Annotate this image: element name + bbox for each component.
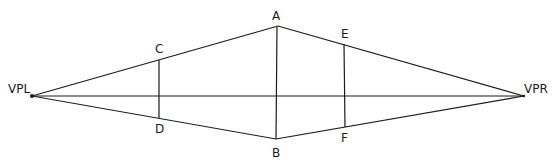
label-vpr: VPR: [524, 82, 548, 96]
label-d: D: [155, 122, 164, 136]
label-b: B: [272, 146, 280, 160]
line-b-vpr: [276, 96, 524, 139]
edge-ef: [344, 44, 345, 127]
label-c: C: [155, 42, 163, 56]
label-e: E: [341, 27, 349, 41]
label-a: A: [272, 9, 281, 23]
perspective-diagram: VPL VPR A B C D E F: [0, 0, 552, 164]
label-f: F: [341, 131, 348, 145]
line-vpl-a: [32, 26, 278, 96]
edge-ab: [276, 27, 277, 139]
line-a-vpr: [278, 26, 524, 96]
line-vpl-b: [32, 96, 276, 139]
vpl-point: [30, 94, 34, 98]
label-vpl: VPL: [8, 82, 30, 96]
